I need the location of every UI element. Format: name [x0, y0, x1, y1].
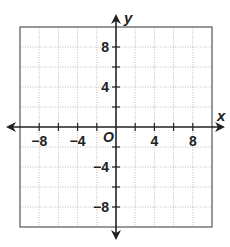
x-tick-label: 4 — [151, 133, 159, 149]
x-tick-label: 8 — [189, 133, 197, 149]
x-tick-label: −4 — [70, 133, 86, 149]
y-tick-label: 4 — [101, 79, 109, 95]
y-tick-label: 8 — [101, 39, 109, 55]
y-axis-label: y — [123, 9, 133, 26]
origin-label: O — [103, 129, 114, 145]
y-tick-label: −8 — [93, 199, 109, 215]
y-tick-label: −4 — [93, 159, 109, 175]
coordinate-plane: y x O −8 −4 4 8 8 4 −4 −8 — [0, 0, 230, 247]
x-tick-label: −8 — [31, 133, 47, 149]
x-axis-label: x — [216, 107, 226, 124]
